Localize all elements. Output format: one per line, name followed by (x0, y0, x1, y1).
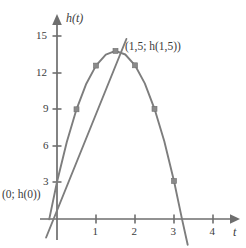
y-tick-label-15: 15 (36, 30, 47, 41)
marker-point (172, 179, 177, 184)
y-axis-label: h(t) (66, 12, 83, 24)
marker-point (152, 106, 157, 111)
vertex-annotation: (1,5; h(1,5)) (125, 41, 181, 53)
marker-point (94, 63, 99, 68)
tangent-line (46, 39, 126, 238)
y-tick-label-9: 9 (43, 103, 49, 114)
marker-point (113, 48, 118, 53)
y-tick-label-3: 3 (43, 176, 49, 187)
x-axis (40, 214, 240, 224)
x-axis-label: t (233, 226, 236, 238)
y-tick-label-12: 12 (36, 67, 47, 78)
y-tick-label-6: 6 (43, 140, 49, 151)
data-point-markers (74, 48, 177, 183)
y-intercept-annotation: (0; h(0)) (2, 189, 41, 201)
x-tick-label-3: 3 (171, 226, 177, 237)
x-axis-arrowhead (230, 214, 240, 224)
graph-figure: h(t) t 15 12 9 6 3 1 2 3 4 (1,5; h(1,5))… (0, 0, 246, 248)
x-tick-label-4: 4 (210, 226, 216, 237)
y-axis-arrowhead (52, 14, 62, 25)
marker-point (133, 63, 138, 68)
marker-point (74, 107, 79, 112)
x-tick-label-2: 2 (132, 226, 138, 237)
y-axis (52, 14, 62, 240)
x-tick-label-1: 1 (93, 226, 99, 237)
parabola-h-of-t (49, 51, 188, 245)
